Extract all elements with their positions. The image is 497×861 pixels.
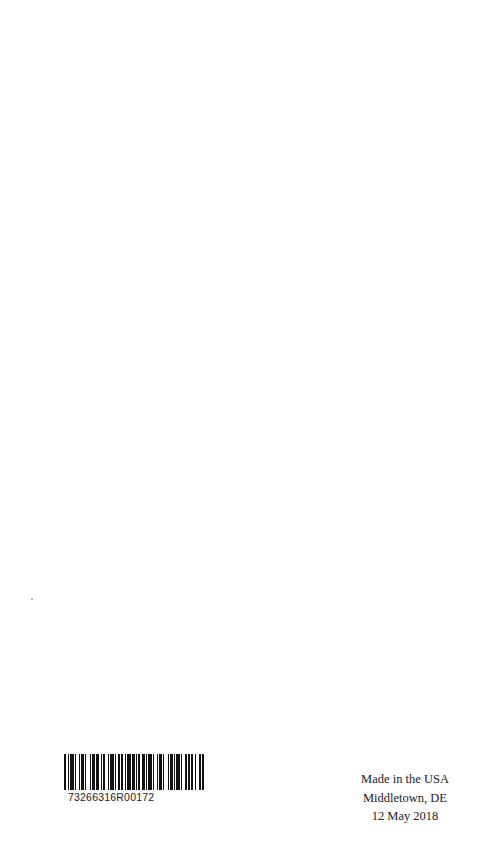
print-speck bbox=[31, 598, 33, 600]
barcode-number: 73266316R00172 bbox=[64, 791, 206, 803]
barcode-image bbox=[64, 754, 206, 790]
barcode-block: 73266316R00172 bbox=[64, 754, 206, 803]
imprint-location: Middletown, DE bbox=[330, 789, 480, 808]
imprint-origin: Made in the USA bbox=[330, 770, 480, 789]
barcode-space bbox=[204, 754, 205, 790]
printer-imprint: Made in the USA Middletown, DE 12 May 20… bbox=[330, 770, 480, 826]
back-page: 73266316R00172 Made in the USA Middletow… bbox=[0, 0, 497, 861]
imprint-date: 12 May 2018 bbox=[330, 807, 480, 826]
